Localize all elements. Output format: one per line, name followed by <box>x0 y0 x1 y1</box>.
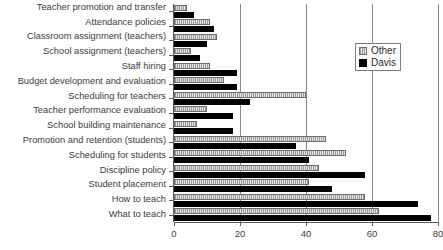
x-axis-tick-label: 20 <box>235 228 246 239</box>
bar-group <box>174 207 438 222</box>
plot-area <box>174 4 438 222</box>
x-axis-tick <box>174 222 175 226</box>
category-label: Teacher promotion and transfer <box>0 0 170 15</box>
x-axis-tick <box>372 222 373 226</box>
legend-label-other: Other <box>371 46 396 56</box>
bar-group <box>174 106 438 121</box>
bar-spacer <box>174 25 438 26</box>
bar-spacer <box>174 40 438 41</box>
x-axis-tick-label: 40 <box>301 228 312 239</box>
gridline <box>438 4 439 222</box>
y-axis-tick <box>169 186 174 187</box>
bar-davis <box>174 84 237 90</box>
bar-davis <box>174 41 207 47</box>
bar-davis <box>174 55 200 61</box>
category-label: Staff hiring <box>0 59 170 74</box>
y-axis-tick <box>169 142 174 143</box>
legend-label-davis: Davis <box>371 58 396 68</box>
category-label: Student placement <box>0 178 170 193</box>
bar-davis <box>174 70 237 76</box>
bar-group <box>174 164 438 179</box>
y-axis-tick <box>169 55 174 56</box>
bar-group <box>174 149 438 164</box>
category-label: Classroom assignment (teachers) <box>0 30 170 45</box>
category-label: Discipline policy <box>0 163 170 178</box>
bar-group <box>174 19 438 34</box>
bar-group <box>174 193 438 208</box>
category-axis-labels: Teacher promotion and transferAttendance… <box>0 0 170 222</box>
y-axis-tick <box>169 200 174 201</box>
chart-legend: Other Davis <box>355 43 401 71</box>
y-axis-tick <box>169 215 174 216</box>
x-axis-tick-label: 60 <box>367 228 378 239</box>
bar-davis <box>174 215 431 221</box>
bar-group <box>174 91 438 106</box>
category-label: Scheduling for teachers <box>0 89 170 104</box>
bar-davis <box>174 201 418 207</box>
bar-davis <box>174 99 250 105</box>
legend-item-davis: Davis <box>359 58 396 68</box>
y-axis-tick <box>169 113 174 114</box>
category-label: Promotion and retention (students) <box>0 133 170 148</box>
bar-group <box>174 135 438 150</box>
category-label: What to teach <box>0 207 170 222</box>
category-label: How to teach <box>0 192 170 207</box>
category-label: Budget development and evaluation <box>0 74 170 89</box>
x-axis-tick-label: 80 <box>433 228 443 239</box>
bar-davis <box>174 12 194 18</box>
x-axis-tick-label: 0 <box>171 228 176 239</box>
x-axis-tick <box>240 222 241 226</box>
category-label: Scheduling for students <box>0 148 170 163</box>
bar-davis <box>174 186 332 192</box>
bar-group <box>174 120 438 135</box>
category-label: Teacher performance evaluation <box>0 104 170 119</box>
category-label: School building maintenance <box>0 118 170 133</box>
legend-swatch-other-icon <box>359 47 367 55</box>
bar-spacer <box>174 11 438 12</box>
bar-davis <box>174 26 214 32</box>
x-axis-tick <box>438 222 439 226</box>
category-label: Attendance policies <box>0 15 170 30</box>
bar-davis <box>174 157 309 163</box>
bar-davis <box>174 128 233 134</box>
legend-item-other: Other <box>359 46 396 56</box>
bar-davis <box>174 113 233 119</box>
bar-group <box>174 4 438 19</box>
y-axis-tick <box>169 26 174 27</box>
bar-davis <box>174 143 296 149</box>
legend-swatch-davis-icon <box>359 59 367 67</box>
category-label: School assignment (teachers) <box>0 44 170 59</box>
y-axis-tick <box>169 128 174 129</box>
y-axis-tick <box>169 98 174 99</box>
bar-group <box>174 77 438 92</box>
y-axis-tick <box>169 84 174 85</box>
y-axis-tick <box>169 171 174 172</box>
bar-group <box>174 178 438 193</box>
y-axis-tick <box>169 40 174 41</box>
y-axis-tick <box>169 157 174 158</box>
x-axis-tick <box>306 222 307 226</box>
y-axis-tick <box>169 69 174 70</box>
y-axis-tick <box>169 11 174 12</box>
bar-davis <box>174 172 365 178</box>
